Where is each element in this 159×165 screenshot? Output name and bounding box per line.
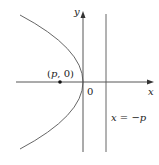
directrix-label: x = −p [111,112,147,123]
focus-point [58,80,62,84]
origin-label: 0 [87,86,93,97]
y-axis-label: y [73,6,80,17]
x-axis-label: x [148,86,154,97]
diagram-canvas: y x 0 (p, 0) x = −p [0,0,159,165]
focus-label: (p, 0) [47,68,74,79]
parabola-diagram: y x 0 (p, 0) x = −p [0,0,159,165]
y-axis-arrow-icon [81,11,86,18]
x-axis-arrow-icon [147,80,154,85]
